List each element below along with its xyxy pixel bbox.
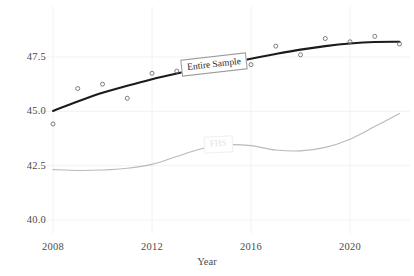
series-label-fhs: FHS (204, 135, 233, 153)
data-point (101, 82, 105, 86)
y-axis-tick-label: 47.5 (6, 51, 46, 62)
x-axis-tick-label: 2008 (30, 241, 76, 252)
data-point (76, 87, 80, 91)
gridlines (37, 6, 410, 234)
data-point (299, 53, 303, 57)
series-line-entire-sample (53, 42, 400, 111)
chart-container: 47.5 45.0 42.5 40.0 2008 2012 2016 2020 … (0, 0, 414, 276)
data-point (323, 37, 327, 41)
y-axis-tick-label: 40.0 (6, 214, 46, 225)
x-axis-tick-label: 2020 (327, 241, 373, 252)
data-point (373, 34, 377, 38)
x-axis-title: Year (0, 256, 414, 267)
x-axis-tick-label: 2016 (228, 241, 274, 252)
y-axis-tick-label: 42.5 (6, 160, 46, 171)
scatter-markers-entire-sample (51, 34, 402, 126)
x-axis-tick-label: 2012 (129, 241, 175, 252)
data-point (274, 44, 278, 48)
data-point (125, 96, 129, 100)
y-axis-tick-label: 45.0 (6, 105, 46, 116)
